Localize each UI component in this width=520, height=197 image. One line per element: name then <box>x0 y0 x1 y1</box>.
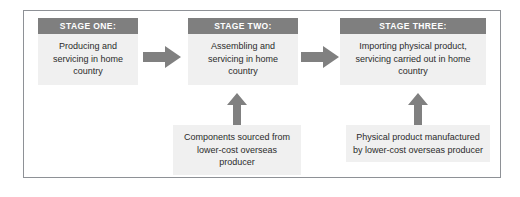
stage-three-body: Importing physical product, servicing ca… <box>340 34 486 85</box>
stage-two-body: Assembling and servicing in home country <box>188 34 298 85</box>
stage-box-one: STAGE ONE: Producing and servicing in ho… <box>38 18 138 85</box>
diagram-canvas: STAGE ONE: Producing and servicing in ho… <box>0 0 520 197</box>
arrow-up-icon <box>227 93 247 125</box>
arrow-support-to-stage-two <box>227 93 247 125</box>
arrow-stage-two-to-three <box>301 46 339 68</box>
support-box-stage-three-label: Physical product manufactured by lower-c… <box>353 132 483 155</box>
stage-one-body: Producing and servicing in home country <box>38 34 138 85</box>
support-box-stage-two: Components sourced from lower-cost overs… <box>173 125 301 175</box>
support-box-stage-three: Physical product manufactured by lower-c… <box>346 125 490 162</box>
stage-one-header: STAGE ONE: <box>38 18 138 34</box>
arrow-right-icon <box>143 46 181 68</box>
stage-box-two: STAGE TWO: Assembling and servicing in h… <box>188 18 298 85</box>
stage-three-header: STAGE THREE: <box>340 18 486 34</box>
stage-two-header: STAGE TWO: <box>188 18 298 34</box>
arrow-support-to-stage-three <box>408 93 428 125</box>
arrow-up-icon <box>408 93 428 125</box>
arrow-stage-one-to-two <box>143 46 181 68</box>
arrow-right-icon <box>301 46 339 68</box>
support-box-stage-two-label: Components sourced from lower-cost overs… <box>184 132 290 167</box>
stage-box-three: STAGE THREE: Importing physical product,… <box>340 18 486 85</box>
